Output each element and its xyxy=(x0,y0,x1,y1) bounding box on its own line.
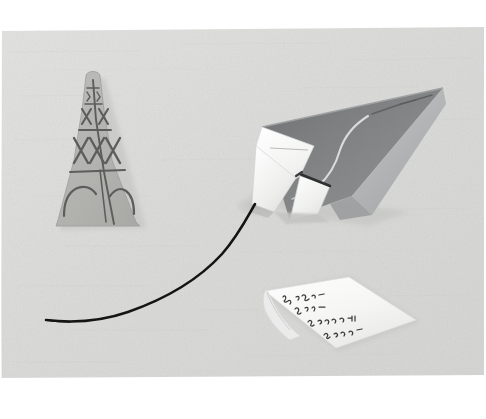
mat-edge-top xyxy=(0,0,486,31)
artwork-scene: Paper Airplane and Eiffel Tower Collage … xyxy=(0,0,486,419)
mat-edge-bottom xyxy=(0,375,486,419)
artwork-canvas xyxy=(0,0,486,419)
